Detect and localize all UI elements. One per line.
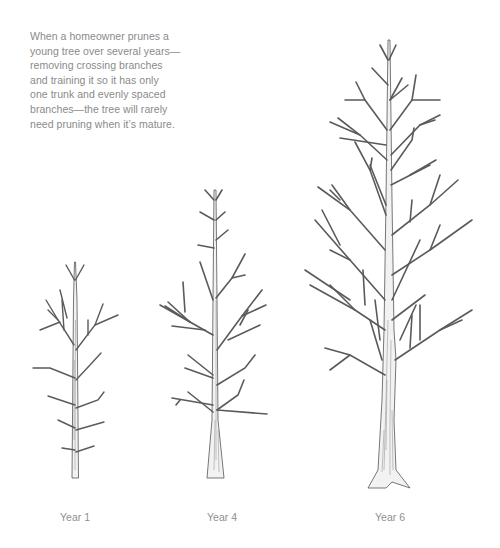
- year-1-label: Year 1: [60, 511, 90, 523]
- tree-year-4-illustration: [160, 190, 267, 478]
- year-4-label: Year 4: [207, 511, 237, 523]
- year-6-label: Year 6: [375, 511, 405, 523]
- tree-year-6-illustration: [305, 40, 472, 488]
- tree-illustrations: [0, 0, 500, 548]
- tree-year-1-illustration: [33, 262, 118, 478]
